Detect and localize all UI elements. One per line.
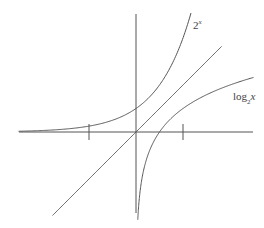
identity-line (53, 46, 222, 215)
function-graph: 2x log2x (0, 0, 264, 228)
exp-label: 2x (193, 18, 203, 31)
axes (19, 14, 253, 213)
exp-curve-2-pow-x (19, 13, 191, 131)
log-label: log2x (233, 90, 256, 106)
